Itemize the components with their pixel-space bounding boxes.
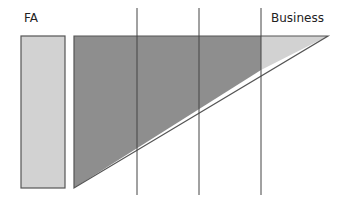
light-region <box>261 36 328 70</box>
fa-box <box>21 36 65 188</box>
fa-business-diagram <box>0 0 344 205</box>
dark-region <box>74 36 261 188</box>
